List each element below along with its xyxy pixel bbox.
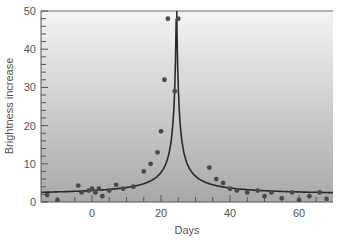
data-point — [100, 194, 105, 199]
data-point — [172, 89, 177, 94]
y-tick-label: 40 — [24, 43, 36, 55]
data-point — [279, 196, 284, 201]
data-point — [324, 197, 329, 202]
x-axis-title: Days — [174, 224, 200, 236]
data-point — [245, 190, 250, 195]
x-tick-label: 60 — [293, 207, 305, 219]
data-point — [262, 194, 267, 199]
data-point — [131, 184, 136, 189]
data-point — [148, 161, 153, 166]
y-tick-labels: 01020304050 — [24, 5, 36, 208]
data-point — [45, 193, 50, 198]
data-point — [317, 190, 322, 195]
x-tick-label: 0 — [89, 207, 95, 219]
chart: 01020304050 0204060 Days Brightness incr… — [0, 0, 340, 240]
x-tick-labels: 0204060 — [89, 207, 305, 219]
y-tick-label: 0 — [30, 196, 36, 208]
data-point — [207, 165, 212, 170]
data-point — [155, 150, 160, 155]
y-tick-label: 30 — [24, 81, 36, 93]
data-point — [307, 194, 312, 199]
y-tick-label: 20 — [24, 120, 36, 132]
data-point — [159, 129, 164, 134]
data-point — [166, 16, 171, 21]
data-point — [214, 177, 219, 182]
data-point — [107, 188, 112, 193]
data-point — [141, 169, 146, 174]
data-point — [97, 186, 102, 191]
data-point — [221, 181, 226, 186]
x-tick-label: 40 — [224, 207, 236, 219]
data-point — [255, 188, 260, 193]
y-axis-title: Brightness increase — [3, 58, 15, 155]
data-point — [121, 186, 126, 191]
plot-area — [41, 11, 333, 202]
data-point — [269, 190, 274, 195]
data-point — [228, 186, 233, 191]
data-point — [162, 77, 167, 82]
data-point — [235, 188, 240, 193]
data-point — [176, 16, 181, 21]
y-tick-label: 10 — [24, 158, 36, 170]
data-point — [76, 183, 81, 188]
data-point — [290, 190, 295, 195]
y-tick-label: 50 — [24, 5, 36, 17]
data-point — [90, 186, 95, 191]
data-point — [79, 190, 84, 195]
data-point — [114, 182, 119, 187]
x-tick-label: 20 — [155, 207, 167, 219]
data-point — [93, 190, 98, 195]
